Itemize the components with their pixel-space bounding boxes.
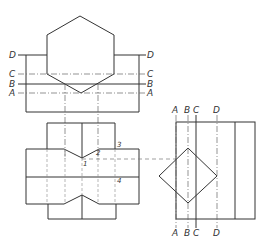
point-label-2: 2 [96, 149, 101, 157]
front-view: 1 2 3 4 [26, 123, 176, 219]
hexagon-outline [47, 16, 114, 93]
label-b-top: B [184, 105, 190, 115]
label-a-left: A [8, 88, 15, 98]
top-view: D C B A D C B A [8, 16, 154, 160]
label-d-left: D [9, 50, 16, 60]
label-d-bottom: D [213, 228, 220, 238]
label-a-right: A [146, 88, 153, 98]
point-label-4: 4 [117, 177, 121, 185]
front-upper-box [47, 123, 115, 149]
point-label-3: 3 [117, 141, 121, 149]
label-c-bottom: C [193, 228, 200, 238]
label-c-left: C [9, 69, 16, 79]
point-label-1: 1 [83, 160, 87, 168]
label-a-bottom: A [171, 228, 178, 238]
technical-drawing: D C B A D C B A 1 2 3 4 [0, 0, 265, 245]
label-c-right: C [147, 69, 154, 79]
side-view: A B C D A B C D [159, 105, 255, 238]
label-c-top: C [193, 105, 200, 115]
label-a-top: A [171, 105, 178, 115]
label-d-top: D [213, 105, 220, 115]
label-d-right: D [147, 50, 154, 60]
label-b-bottom: B [184, 228, 190, 238]
